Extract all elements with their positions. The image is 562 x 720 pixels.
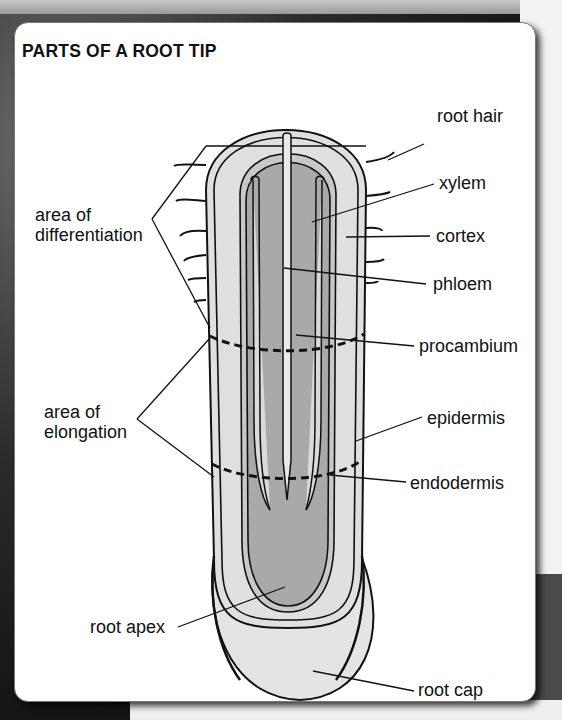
label-procambium: procambium bbox=[419, 336, 518, 356]
label-area-differentiation-line1: area of bbox=[35, 205, 143, 225]
label-area-differentiation: area of differentiation bbox=[35, 205, 143, 245]
phloem-strand bbox=[283, 133, 291, 500]
label-root-apex: root apex bbox=[90, 617, 165, 637]
label-epidermis: epidermis bbox=[427, 408, 505, 428]
label-phloem: phloem bbox=[433, 274, 492, 294]
root-hairs-right bbox=[366, 152, 394, 283]
root-hairs-left bbox=[174, 164, 206, 302]
label-endodermis: endodermis bbox=[410, 473, 504, 493]
label-area-differentiation-line2: differentiation bbox=[35, 225, 143, 245]
label-root-hair: root hair bbox=[437, 106, 503, 126]
label-area-elongation-line2: elongation bbox=[44, 422, 127, 442]
label-area-elongation-line1: area of bbox=[44, 402, 127, 422]
label-xylem: xylem bbox=[439, 173, 486, 193]
label-area-elongation: area of elongation bbox=[44, 402, 127, 442]
label-root-cap: root cap bbox=[418, 680, 483, 700]
label-cortex: cortex bbox=[436, 226, 485, 246]
